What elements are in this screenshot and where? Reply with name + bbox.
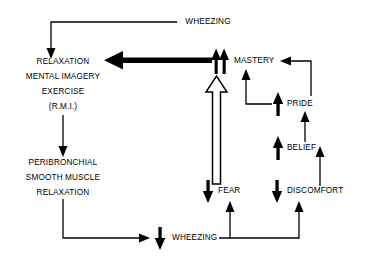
pride-indicator-up-arrow xyxy=(273,92,283,116)
arrowhead-left-to-mastery-outer xyxy=(280,57,291,66)
mastery-up-arrow-2 xyxy=(219,49,229,75)
edge-wheezing-to-fear xyxy=(219,201,235,238)
edge-rmi-to-peribronchial xyxy=(59,115,68,157)
arrowhead-down-to-peribronchial xyxy=(59,146,68,157)
node-label-wheezing-top: WHEEZING xyxy=(185,17,230,26)
arrowhead-left-thick xyxy=(104,51,123,70)
edge-discomfort-to-belief xyxy=(316,146,325,186)
arrowhead-up-to-discomfort xyxy=(295,201,304,212)
edge-belief-to-pride xyxy=(301,111,310,142)
node-label-fear: FEAR xyxy=(218,186,240,195)
arrowhead-up-to-fear xyxy=(226,201,235,212)
node-label-smooth-muscle: SMOOTH MUSCLE xyxy=(26,173,101,182)
fear-indicator-down-arrow xyxy=(203,180,213,203)
diagram-canvas: WHEEZING RELAXATION MENTAL IMAGERY EXERC… xyxy=(0,0,369,263)
edge-wheezing-to-discomfort xyxy=(230,201,304,238)
edge-wheezing-top-to-rmi xyxy=(47,22,178,59)
node-label-mental-imagery: MENTAL IMAGERY xyxy=(26,72,101,81)
node-label-relaxation-2: RELAXATION xyxy=(37,188,90,197)
edge-pride-to-mastery-inner xyxy=(242,69,273,104)
node-label-wheezing-bottom: WHEEZING xyxy=(172,233,217,242)
mastery-indicator-double-up-arrows xyxy=(211,49,229,75)
node-label-discomfort: DISCOMFORT xyxy=(287,186,343,195)
node-label-pride: PRIDE xyxy=(287,99,313,108)
node-label-exercise: EXERCISE xyxy=(42,87,85,96)
belief-indicator-up-arrow xyxy=(273,136,283,160)
discomfort-indicator-down-arrow xyxy=(272,180,282,203)
edge-peribronchial-to-wheezing xyxy=(63,199,150,243)
flow-diagram-svg: WHEEZING RELAXATION MENTAL IMAGERY EXERC… xyxy=(0,0,369,263)
arrowhead-up-to-mastery-inner xyxy=(242,69,251,80)
arrowhead-right-to-wheezing xyxy=(139,234,150,243)
node-label-rmi-abbrev: (R.M.I.) xyxy=(49,102,78,111)
edge-mastery-to-rmi-thick xyxy=(104,51,212,70)
node-label-mastery: MASTERY xyxy=(234,56,275,65)
edge-pride-to-mastery-outer xyxy=(280,57,311,97)
wheezing-bottom-indicator-down-arrow xyxy=(155,227,165,250)
arrowhead-up-to-belief xyxy=(316,146,325,157)
node-label-relaxation: RELAXATION xyxy=(37,57,90,66)
mastery-up-arrow-1 xyxy=(211,49,221,75)
node-label-peribronchial: PERIBRONCHIAL xyxy=(29,158,98,167)
edge-fear-to-mastery-hollow xyxy=(206,76,227,184)
node-label-belief: BELIEF xyxy=(287,143,316,152)
arrowhead-up-to-pride xyxy=(301,111,310,122)
